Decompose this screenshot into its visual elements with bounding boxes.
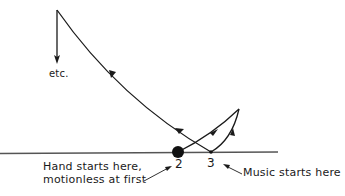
point-3-label: 3 bbox=[207, 157, 215, 169]
stroke-long-curve bbox=[57, 10, 211, 152]
hand-start-label-line2: motionless at first bbox=[43, 174, 146, 186]
point-2-label: 2 bbox=[175, 158, 183, 170]
hand-start-label-line1: Hand starts here, bbox=[43, 161, 142, 173]
music-start-label: Music starts here bbox=[243, 167, 341, 179]
music-start-dot bbox=[209, 150, 213, 154]
etc-label: etc. bbox=[49, 68, 69, 80]
arrow-icon bbox=[223, 164, 230, 169]
baseline bbox=[0, 152, 278, 154]
conducting-diagram: etc. 2 3 Hand starts here, motionless at… bbox=[0, 0, 345, 196]
arrow-icon bbox=[175, 128, 184, 134]
stroke-up-to-peak bbox=[178, 109, 239, 152]
arrow-icon bbox=[165, 166, 172, 171]
